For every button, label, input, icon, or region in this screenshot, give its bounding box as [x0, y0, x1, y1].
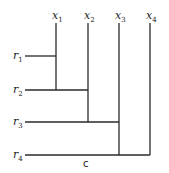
- row-label-r1: r1: [13, 50, 23, 64]
- column-label-x3: x3: [115, 10, 126, 24]
- diagram-lines: [0, 0, 169, 173]
- row-label-r4: r4: [13, 149, 23, 163]
- column-label-x4: x4: [146, 10, 157, 24]
- row-label-r3: r3: [13, 116, 23, 130]
- column-label-x2: x2: [84, 10, 95, 24]
- column-label-x1: x1: [52, 10, 63, 24]
- bottom-label-c: c: [83, 159, 89, 169]
- row-label-r2: r2: [13, 84, 23, 98]
